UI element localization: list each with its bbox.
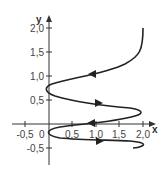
x-tick-label: 2,0 bbox=[136, 129, 150, 140]
direction-arrow-icon bbox=[87, 119, 95, 127]
x-axis-label: x bbox=[152, 124, 158, 135]
y-tick-label: -0,5 bbox=[27, 143, 45, 154]
origin-label: 0 bbox=[39, 129, 45, 140]
y-tick-label: 1,0 bbox=[30, 71, 44, 82]
chart: y x 0 -0,5 0,5 1,0 1,5 2,0 2,0 1,5 1,0 0… bbox=[0, 0, 164, 175]
x-tick-label: 1,5 bbox=[112, 129, 126, 140]
y-axis-arrow-icon bbox=[46, 15, 52, 22]
x-tick-label: -0,5 bbox=[16, 129, 34, 140]
direction-arrow-icon bbox=[88, 70, 96, 78]
y-tick-label: 2,0 bbox=[30, 23, 44, 34]
y-tick-label: 0,5 bbox=[30, 95, 44, 106]
y-tick-label: 1,5 bbox=[30, 47, 44, 58]
